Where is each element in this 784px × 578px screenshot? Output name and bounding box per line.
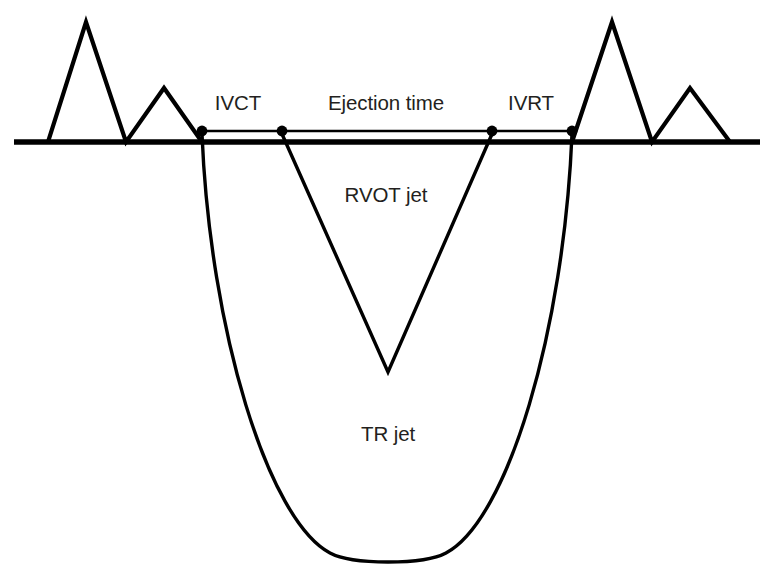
doppler-timing-diagram: IVCT Ejection time IVRT RVOT jet TR jet <box>0 0 784 578</box>
label-ejection-time: Ejection time <box>328 91 444 114</box>
rvot-jet-envelope <box>282 134 492 372</box>
marker-dot-rvot-jet-end[interactable] <box>487 126 498 137</box>
label-tr-jet: TR jet <box>361 422 415 445</box>
label-ivrt: IVRT <box>508 91 555 114</box>
cropped-caption-remnant <box>0 564 784 578</box>
ecg-trace-left-complex <box>14 22 202 142</box>
marker-dot-tr-jet-onset[interactable] <box>197 126 208 137</box>
figure-root: IVCT Ejection time IVRT RVOT jet TR jet <box>0 0 784 578</box>
marker-dot-rvot-jet-onset[interactable] <box>277 126 288 137</box>
marker-dot-tr-jet-end[interactable] <box>567 126 578 137</box>
label-ivct: IVCT <box>215 91 262 114</box>
ecg-trace-right-complex <box>572 22 760 142</box>
label-rvot-jet: RVOT jet <box>345 183 428 206</box>
